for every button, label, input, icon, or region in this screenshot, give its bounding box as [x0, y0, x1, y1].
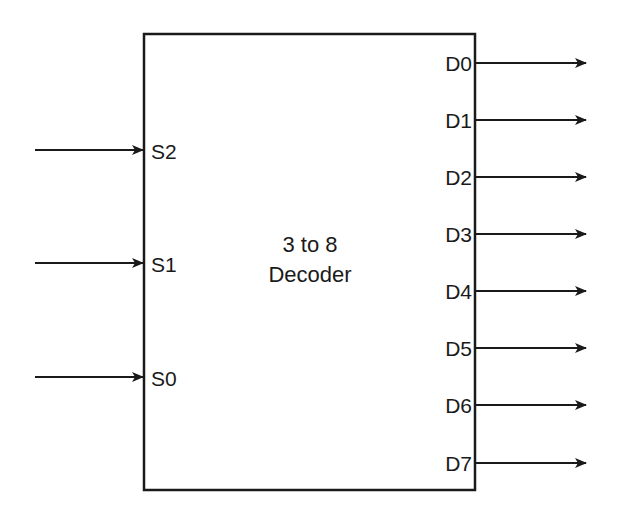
- input-label-s2: S2: [151, 141, 177, 162]
- output-label-d4: D4: [412, 281, 472, 302]
- input-label-s1: S1: [151, 254, 177, 275]
- output-label-d5: D5: [412, 338, 472, 359]
- output-label-d0: D0: [412, 53, 472, 74]
- output-label-d7: D7: [412, 453, 472, 474]
- decoder-diagram: [0, 0, 623, 516]
- output-label-d3: D3: [412, 224, 472, 245]
- block-title-line1: 3 to 8: [230, 232, 390, 258]
- input-label-s0: S0: [151, 368, 177, 389]
- output-label-d2: D2: [412, 167, 472, 188]
- block-title-line2: Decoder: [230, 262, 390, 288]
- output-label-d1: D1: [412, 110, 472, 131]
- output-label-d6: D6: [412, 395, 472, 416]
